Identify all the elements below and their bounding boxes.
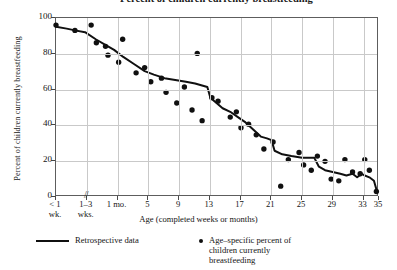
- legend-item-age-specific-percent: Age–specific percent of children current…: [199, 235, 369, 265]
- gridline-vertical: [87, 18, 88, 195]
- x-axis-tick-mark: [117, 196, 118, 200]
- data-point: [159, 76, 164, 81]
- legend-label-line-2: children currently: [209, 245, 270, 255]
- data-point: [350, 169, 355, 174]
- y-axis-tick-labels: 020406080100: [26, 0, 52, 270]
- x-axis-tick-mark: [270, 196, 271, 200]
- data-point: [315, 153, 320, 158]
- chart-figure: Percent of children currently breastfeed…: [0, 0, 397, 270]
- data-point: [309, 168, 314, 173]
- y-axis-tick-label: 100: [30, 12, 52, 21]
- gridline-vertical: [364, 18, 365, 195]
- x-axis-tick-label: 35: [356, 199, 397, 209]
- data-point: [336, 178, 341, 183]
- x-axis-tick-mark: [301, 196, 302, 200]
- gridline-horizontal: [56, 54, 377, 55]
- gridline-vertical: [179, 18, 180, 195]
- x-axis-tick-mark: [332, 196, 333, 200]
- y-axis-tick-label: 20: [30, 155, 52, 164]
- data-point: [142, 65, 147, 70]
- plot-area: [55, 17, 378, 196]
- y-axis-tick-mark: [51, 160, 55, 161]
- x-axis-title: Age (completed weeks or months): [0, 214, 397, 224]
- data-point: [296, 150, 301, 155]
- data-point: [228, 114, 233, 119]
- gridline-vertical: [333, 18, 334, 195]
- data-point: [189, 107, 194, 112]
- chart-series-layer: [56, 18, 377, 195]
- legend-label-age-specific-percent: Age–specific percent of children current…: [209, 235, 291, 265]
- data-point: [53, 22, 58, 27]
- y-axis-tick-label: 40: [30, 119, 52, 128]
- y-axis-tick-mark: [51, 17, 55, 18]
- legend-label-retrospective-data: Retrospective data: [75, 235, 139, 245]
- data-point: [94, 40, 99, 45]
- axis-break-icon: //: [84, 190, 96, 199]
- x-axis-tick-mark: [178, 196, 179, 200]
- legend-label-line-3: breastfeeding: [209, 255, 255, 265]
- x-axis-tick-mark: [147, 196, 148, 200]
- gridline-horizontal: [56, 125, 377, 126]
- data-point: [88, 22, 93, 27]
- gridline-vertical: [148, 18, 149, 195]
- gridline-vertical: [302, 18, 303, 195]
- data-point: [254, 132, 259, 137]
- series-scatter-age-specific-percent: [53, 22, 379, 194]
- legend-dot-swatch-icon: [199, 239, 203, 243]
- x-axis-tick-mark: [378, 196, 379, 200]
- legend-item-retrospective-data: Retrospective data: [36, 235, 139, 245]
- gridline-horizontal: [56, 90, 377, 91]
- data-point: [261, 146, 266, 151]
- data-point: [133, 70, 138, 75]
- gridline-vertical: [118, 18, 119, 195]
- data-point: [199, 118, 204, 123]
- data-point: [215, 99, 220, 104]
- x-axis-tick-mark: [209, 196, 210, 200]
- y-axis-tick-label: 80: [30, 48, 52, 57]
- y-axis-title: Percent of children currently breastfeed…: [13, 14, 22, 204]
- gridline-vertical: [241, 18, 242, 195]
- data-point: [72, 28, 77, 33]
- gridline-vertical: [210, 18, 211, 195]
- y-axis-tick-mark: [51, 53, 55, 54]
- y-axis-tick-mark: [51, 124, 55, 125]
- gridline-horizontal: [56, 161, 377, 162]
- data-point: [367, 168, 372, 173]
- chart-legend: Retrospective data Age–specific percent …: [0, 233, 397, 270]
- chart-title: Percent of children currently breastfeed…: [120, 0, 397, 4]
- gridline-vertical: [271, 18, 272, 195]
- y-axis-tick-label: 60: [30, 84, 52, 93]
- y-axis-tick-mark: [51, 196, 55, 197]
- x-axis-tick-mark: [55, 196, 56, 200]
- data-point: [234, 109, 239, 114]
- data-point: [374, 189, 379, 194]
- data-point: [278, 183, 283, 188]
- data-point: [358, 171, 363, 176]
- y-axis-tick-mark: [51, 89, 55, 90]
- data-point: [103, 44, 108, 49]
- x-axis-tick-mark: [240, 196, 241, 200]
- data-point: [120, 37, 125, 42]
- legend-line-swatch-icon: [36, 240, 69, 242]
- series-line-retrospective-data: [56, 27, 377, 192]
- legend-label-line-1: Age–specific percent of: [209, 235, 291, 245]
